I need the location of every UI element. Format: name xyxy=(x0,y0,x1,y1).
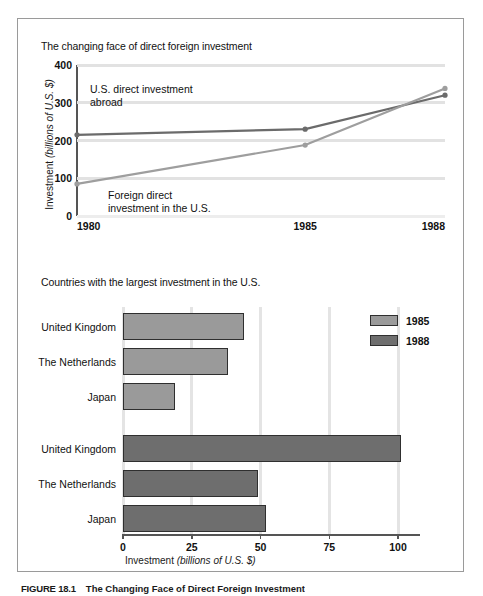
legend-swatch-1985 xyxy=(370,315,398,326)
x-tick-label-75: 75 xyxy=(323,541,335,553)
annotation-foreign-direct-investment-in-us: Foreign directinvestment in the U.S. xyxy=(108,189,211,214)
data-point-us-abroad-1985 xyxy=(303,127,308,132)
data-point-us-abroad-1980 xyxy=(74,132,79,137)
bar-chart-panel: Countries with the largest investment in… xyxy=(18,259,465,573)
line-y-label-plain: Investment xyxy=(44,158,55,210)
gridline-50 xyxy=(259,307,262,534)
line-chart-title: The changing face of direct foreign inve… xyxy=(41,40,252,52)
bar-x-label-italic: (billions of U.S. $) xyxy=(177,555,256,566)
bar-chart-x-axis-label: Investment (billions of U.S. $) xyxy=(125,555,256,566)
legend-swatch-1988 xyxy=(370,335,398,346)
data-point-us-abroad-1988 xyxy=(442,93,447,98)
x-tick-label-50: 50 xyxy=(255,541,267,553)
figure-frame: The changing face of direct foreign inve… xyxy=(17,18,464,572)
bar-category-label-the-netherlands-1988: The Netherlands xyxy=(38,478,116,490)
bar-chart-x-axis xyxy=(123,534,420,536)
bar-the-netherlands-1985 xyxy=(123,348,228,375)
bar-united-kingdom-1985 xyxy=(123,313,244,340)
line-chart-y-axis-label: Investment (billions of U.S. $) xyxy=(44,50,55,240)
bar-chart-title: Countries with the largest investment in… xyxy=(41,276,260,288)
legend-item-1985: 1985 xyxy=(370,312,429,329)
y-tick-label-0: 0 xyxy=(66,210,72,222)
y-tick-label-400: 400 xyxy=(54,59,72,71)
bar-category-label-united-kingdom-1988: United Kingdom xyxy=(41,443,116,455)
bar-chart-legend: 19851988 xyxy=(370,312,429,352)
bar-category-label-the-netherlands-1985: The Netherlands xyxy=(38,356,116,368)
figure-caption-text: The Changing Face of Direct Foreign Inve… xyxy=(86,583,305,594)
bar-category-label-united-kingdom-1985: United Kingdom xyxy=(41,321,116,333)
gridline-75 xyxy=(328,307,331,534)
x-tick-label-1988: 1988 xyxy=(422,220,445,232)
x-tick-label-1985: 1985 xyxy=(293,220,316,232)
y-tick-label-200: 200 xyxy=(54,135,72,147)
data-point-foreign-in-us-1980 xyxy=(74,181,79,186)
line-y-label-italic: (billions of U.S. $) xyxy=(44,79,55,158)
bar-the-netherlands-1988 xyxy=(123,470,258,497)
x-tick-label-1980: 1980 xyxy=(77,220,100,232)
bar-japan-1985 xyxy=(123,383,175,410)
bar-japan-1988 xyxy=(123,505,266,532)
gridline-0 xyxy=(122,307,125,534)
data-point-foreign-in-us-1988 xyxy=(442,86,447,91)
y-tick-label-300: 300 xyxy=(54,97,72,109)
line-chart-panel: The changing face of direct foreign inve… xyxy=(18,19,465,259)
legend-item-1988: 1988 xyxy=(370,332,429,349)
bar-x-label-plain: Investment xyxy=(125,555,177,566)
legend-label-1988: 1988 xyxy=(406,335,429,347)
legend-label-1985: 1985 xyxy=(406,315,429,327)
figure-caption: FIGURE 18.1The Changing Face of Direct F… xyxy=(21,583,305,596)
data-point-foreign-in-us-1985 xyxy=(303,142,308,147)
y-tick-label-100: 100 xyxy=(54,172,72,184)
bar-category-label-japan-1985: Japan xyxy=(87,391,116,403)
annotation-us-direct-investment-abroad: U.S. direct investmentabroad xyxy=(90,83,193,108)
x-tick-label-25: 25 xyxy=(186,541,198,553)
figure-caption-number: FIGURE 18.1 xyxy=(21,583,76,594)
x-tick-label-100: 100 xyxy=(389,541,407,553)
gridline-25 xyxy=(190,307,193,534)
bar-category-label-japan-1988: Japan xyxy=(87,513,116,525)
x-tick-label-0: 0 xyxy=(120,541,126,553)
bar-united-kingdom-1988 xyxy=(123,435,401,462)
